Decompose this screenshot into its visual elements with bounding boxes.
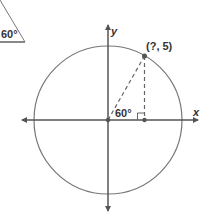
circle-point <box>142 54 147 59</box>
foot-point <box>142 118 146 122</box>
reference-angle-label: 60° <box>1 28 18 40</box>
unit-circle-diagram: 60° x y (?, 5) 60° <box>0 0 210 217</box>
reference-triangle: 60° <box>0 0 25 42</box>
x-axis: x <box>22 106 200 120</box>
x-axis-label: x <box>192 106 200 118</box>
origin-point <box>106 118 110 122</box>
angle-label: 60° <box>115 107 132 119</box>
y-axis-label: y <box>110 25 118 37</box>
point-label: (?, 5) <box>146 40 173 52</box>
